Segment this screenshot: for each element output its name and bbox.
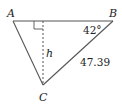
altitude-label-h: h [46, 47, 53, 60]
side-bc-length-label: 47.39 [80, 56, 110, 68]
vertex-label-c: C [39, 91, 48, 104]
vertex-label-b: B [108, 7, 117, 20]
triangle-diagram: A B C h 42° 47.39 [0, 0, 122, 106]
right-angle-marker [34, 21, 43, 29]
angle-b-label: 42° [83, 24, 102, 36]
side-bc [43, 21, 113, 85]
vertex-label-a: A [6, 7, 15, 20]
side-ac [13, 21, 43, 85]
